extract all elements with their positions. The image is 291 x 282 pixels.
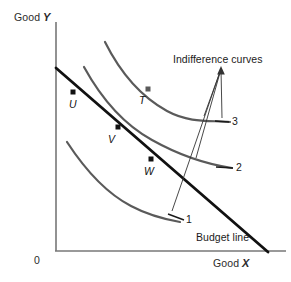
point-label-v: V (108, 133, 115, 145)
marker-point-t (146, 87, 151, 92)
budget-line-label: Budget line (196, 231, 249, 243)
curve-label-1: 1 (186, 213, 192, 225)
connector-curve-2 (216, 167, 233, 168)
leader-line-to-curve-2 (196, 69, 221, 158)
indifference-curve-chart: Good Y Good X 0 U V W T 1 2 3 Indifferen… (0, 0, 291, 282)
indifference-curve-1 (67, 142, 180, 222)
connector-curve-3 (215, 121, 229, 122)
indifference-curves-callout: Indifference curves (173, 53, 262, 65)
y-axis-label: Good Y (14, 11, 51, 23)
point-label-t: T (139, 94, 145, 106)
marker-point-u (71, 90, 76, 95)
point-label-u: U (69, 98, 77, 110)
x-axis-label-variable: X (242, 257, 249, 269)
curve-label-3: 3 (232, 115, 238, 127)
x-axis-label-prefix: Good (213, 257, 242, 269)
marker-point-w (149, 157, 154, 162)
y-axis-label-prefix: Good (14, 11, 43, 23)
x-axis-label: Good X (213, 257, 250, 269)
leader-line-to-curve-3 (204, 69, 221, 116)
origin-label: 0 (34, 254, 40, 266)
curve-number-connectors (168, 121, 233, 220)
budget-line (56, 68, 268, 252)
marker-point-v (116, 125, 121, 130)
point-label-w: W (144, 165, 154, 177)
leader-line-vertical (221, 69, 222, 118)
callout-arrowhead (217, 66, 225, 75)
curve-label-2: 2 (236, 161, 242, 173)
indifference-curve-2 (84, 67, 232, 168)
y-axis-label-variable: Y (43, 11, 50, 23)
